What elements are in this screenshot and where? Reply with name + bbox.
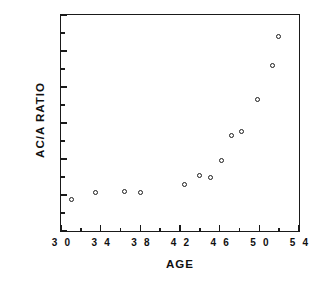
x-axis-tick-minor [120, 228, 122, 232]
x-axis-tick-major [259, 225, 261, 231]
x-axis-tick-label: 4 2 [160, 237, 200, 248]
data-point [197, 173, 202, 178]
y-axis-tick-major [61, 230, 67, 232]
y-axis-title: AC/A RATIO [34, 10, 46, 230]
data-point [182, 182, 187, 187]
y-axis-tick-minor [61, 140, 65, 142]
y-axis-tick-minor [61, 176, 65, 178]
data-point [239, 129, 244, 134]
x-axis-tick-label: 3 4 [81, 237, 121, 248]
x-axis-tick-label: 5 0 [239, 237, 279, 248]
data-point [276, 34, 281, 39]
x-axis-tick-minor [159, 228, 161, 232]
y-axis-tick-major [61, 50, 67, 52]
x-axis-tick-label: 5 4 [279, 237, 319, 248]
x-axis-tick-major [298, 225, 300, 231]
x-axis-title: AGE [60, 258, 300, 270]
data-point [219, 158, 224, 163]
x-axis-tick-major [100, 225, 102, 231]
y-axis-tick-major [61, 158, 67, 160]
x-axis-tick-minor [199, 228, 201, 232]
y-axis-tick-major [61, 14, 67, 16]
scatter-plot-figure: 0510152025303 03 43 84 24 65 05 4 AC/A R… [0, 0, 319, 283]
data-point [69, 197, 74, 202]
data-point [229, 133, 234, 138]
y-axis-tick-minor [61, 32, 65, 34]
y-axis-tick-minor [61, 212, 65, 214]
y-axis-tick-major [61, 86, 67, 88]
y-axis-tick-major [61, 194, 67, 196]
x-axis-tick-major [60, 225, 62, 231]
x-axis-tick-minor [278, 228, 280, 232]
x-axis-tick-label: 3 0 [41, 237, 81, 248]
y-axis-tick-minor [61, 104, 65, 106]
data-point [138, 190, 143, 195]
x-axis-tick-minor [80, 228, 82, 232]
y-axis-tick-major [61, 122, 67, 124]
data-point [208, 175, 213, 180]
y-axis-tick-minor [61, 68, 65, 70]
x-axis-tick-major [140, 225, 142, 231]
plot-area: 0510152025303 03 43 84 24 65 05 4 [61, 15, 299, 231]
data-point [255, 97, 260, 102]
x-axis-tick-major [179, 225, 181, 231]
x-axis-tick-label: 4 6 [200, 237, 240, 248]
data-point [270, 63, 275, 68]
x-axis-tick-minor [239, 228, 241, 232]
data-point [122, 189, 127, 194]
plot-frame: 0510152025303 03 43 84 24 65 05 4 [60, 14, 300, 232]
x-axis-tick-label: 3 8 [120, 237, 160, 248]
data-point [93, 190, 98, 195]
x-axis-tick-major [219, 225, 221, 231]
